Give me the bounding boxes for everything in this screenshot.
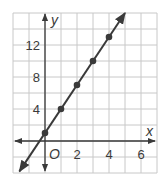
- y-tick-label: 12: [26, 38, 40, 53]
- x-axis-label: x: [145, 123, 154, 139]
- y-tick-label: 8: [33, 70, 40, 85]
- x-tick-label: 4: [105, 147, 112, 162]
- coordinate-plane: 2464812Oxy: [0, 0, 164, 185]
- y-tick-label: 4: [33, 102, 40, 117]
- data-point: [42, 130, 49, 137]
- data-point: [74, 82, 81, 89]
- origin-label: O: [49, 146, 60, 162]
- data-point: [106, 34, 113, 41]
- x-tick-label: 6: [137, 147, 144, 162]
- data-point: [90, 58, 97, 65]
- x-tick-label: 2: [73, 147, 80, 162]
- y-axis-label: y: [50, 12, 59, 28]
- data-point: [58, 106, 65, 113]
